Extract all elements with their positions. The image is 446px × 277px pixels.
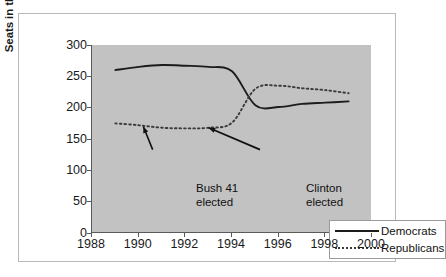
x-tick-label: 1996: [264, 238, 292, 251]
bush-arrow-head: [143, 126, 148, 133]
x-tick-label: 2000: [357, 238, 385, 251]
x-tick-mark: [184, 233, 185, 237]
series-line-republicans: [115, 85, 348, 128]
annotation-bush-41-elected: Bush 41 elected: [196, 181, 238, 210]
y-tick-label: 250: [41, 70, 87, 83]
y-axis-ticks: 300 250 200 150 100 50 0: [37, 45, 87, 233]
x-tick-label: 1992: [170, 238, 198, 251]
series-line-democrats: [115, 65, 348, 108]
x-axis-ticks: 1988 1990 1992 1994 1996 1998 2000: [91, 238, 391, 258]
legend-swatch-democrats: [335, 230, 379, 232]
y-tick-label: 200: [41, 101, 87, 114]
x-tick-mark: [231, 233, 232, 237]
x-tick-label: 1998: [310, 238, 338, 251]
x-tick-mark: [278, 233, 279, 237]
x-tick-mark: [138, 233, 139, 237]
y-tick-label: 100: [41, 164, 87, 177]
legend-entry-democrats: Democrats: [335, 223, 443, 239]
clinton-arrow-line: [209, 128, 260, 150]
annotation-clinton-elected: Clinton elected: [306, 181, 371, 210]
x-tick-mark: [371, 233, 372, 237]
annotation-arrows: [143, 126, 260, 149]
y-tick-label: 150: [41, 133, 87, 146]
y-axis-title: Seats in the House of Rep.: [3, 0, 15, 74]
x-tick-label: 1994: [217, 238, 245, 251]
legend-label-democrats: Democrats: [381, 223, 437, 239]
chart-frame: Seats in the House of Rep. 300 250 200 1…: [18, 13, 396, 262]
x-tick-mark: [91, 233, 92, 237]
x-tick-mark: [324, 233, 325, 237]
x-tick-label: 1990: [124, 238, 152, 251]
y-tick-label: 300: [41, 39, 87, 52]
plot-area: Bush 41 elected Clinton elected Democrat…: [91, 45, 371, 233]
clinton-arrow-head: [209, 128, 216, 133]
y-tick-label: 50: [41, 195, 87, 208]
x-tick-label: 1988: [77, 238, 105, 251]
